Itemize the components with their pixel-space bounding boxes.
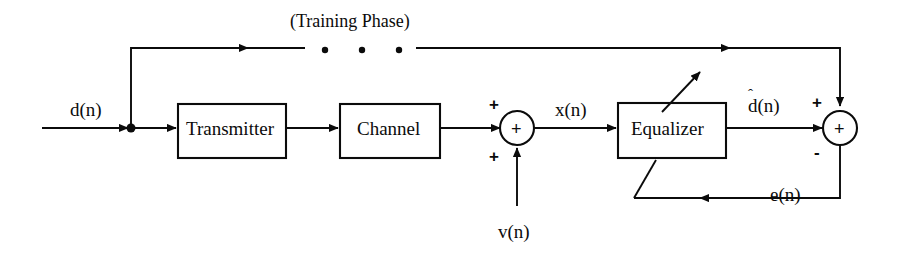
error-feedback-diagonal-to-equalizer <box>634 160 656 198</box>
block-diagram-canvas: (Training Phase) d(n) Transmitter Channe… <box>0 0 906 257</box>
diagram-vector-layer <box>0 0 906 257</box>
equalizer-block-label[interactable]: Equalizer <box>631 119 704 138</box>
training-phase-note: (Training Phase) <box>290 12 410 30</box>
channel-noise-adder-inner-symbol: + <box>511 120 522 138</box>
error-signal-label: e(n) <box>770 185 801 204</box>
equalizer-output-signal-label: ˆ d (n) <box>748 96 780 115</box>
transmitter-block-label[interactable]: Transmitter <box>186 119 274 138</box>
error-adder-inner-symbol: + <box>834 120 845 138</box>
d-hat-glyph: ˆ d <box>748 96 758 115</box>
channel-output-signal-label: x(n) <box>555 100 587 119</box>
training-gap-dot-1 <box>322 47 328 53</box>
input-signal-label: d(n) <box>70 100 102 119</box>
channel-noise-adder-sign-top: + <box>489 96 499 113</box>
noise-signal-label: v(n) <box>498 222 530 241</box>
error-adder-sign-bottom: - <box>814 144 820 161</box>
d-hat-suffix: (n) <box>758 95 780 116</box>
channel-noise-adder-sign-bottom: + <box>489 148 499 165</box>
training-gap-dot-3 <box>396 47 402 53</box>
channel-block-label[interactable]: Channel <box>357 119 420 138</box>
training-gap-dot-2 <box>359 47 365 53</box>
input-branch-node <box>127 124 136 133</box>
error-adder-sign-top: + <box>812 94 822 111</box>
circumflex-accent-icon: ˆ <box>748 87 753 102</box>
